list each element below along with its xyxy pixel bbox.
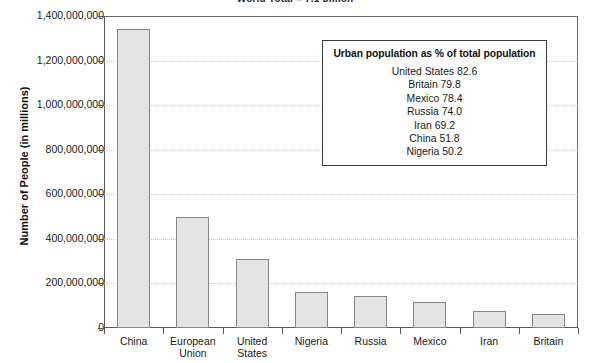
x-tick-mark: [519, 328, 520, 334]
y-tick-label: 1,200,000,000: [0, 54, 114, 66]
x-tick-label-line1: Russia: [341, 336, 400, 348]
x-tick-label: Russia: [341, 336, 400, 348]
x-tick-label-line1: Britain: [519, 336, 578, 348]
gridline: [104, 194, 578, 195]
legend-row: China 51.8: [323, 132, 546, 145]
bar-iran: [473, 311, 506, 328]
y-tick-label: 0: [0, 321, 114, 333]
x-tick-label-line1: Nigeria: [282, 336, 341, 348]
x-tick-label-line2: States: [223, 348, 282, 360]
bar-european-union: [176, 217, 209, 328]
bar-nigeria: [295, 292, 328, 328]
x-tick-mark: [460, 328, 461, 334]
x-tick-label: EuropeanUnion: [163, 336, 222, 359]
bar-united-states: [236, 259, 269, 328]
bar-chart: World Total = 7.1 billion Number of Peop…: [0, 0, 590, 363]
urban-population-legend: Urban population as % of total populatio…: [322, 40, 547, 166]
y-tick-label: 400,000,000: [0, 232, 114, 244]
x-tick-label-line1: United: [223, 336, 282, 348]
x-tick-label: UnitedStates: [223, 336, 282, 359]
gridline: [104, 283, 578, 284]
x-tick-label: Mexico: [400, 336, 459, 348]
x-tick-label-line1: China: [104, 336, 163, 348]
legend-row: Mexico 78.4: [323, 92, 546, 105]
bar-china: [117, 29, 150, 328]
legend-row: Iran 69.2: [323, 119, 546, 132]
bar-mexico: [413, 302, 446, 328]
legend-title: Urban population as % of total populatio…: [323, 48, 546, 59]
y-tick-label: 600,000,000: [0, 187, 114, 199]
y-tick-label: 200,000,000: [0, 276, 114, 288]
y-tick-label: 1,000,000,000: [0, 98, 114, 110]
x-tick-mark: [400, 328, 401, 334]
gridline: [104, 239, 578, 240]
legend-row: Nigeria 50.2: [323, 145, 546, 158]
x-tick-mark: [104, 328, 105, 334]
x-tick-label: China: [104, 336, 163, 348]
bar-russia: [354, 296, 387, 328]
x-tick-label: Iran: [460, 336, 519, 348]
x-tick-mark: [282, 328, 283, 334]
x-tick-mark: [163, 328, 164, 334]
legend-row: United States 82.6: [323, 65, 546, 78]
legend-row: Britain 79.8: [323, 78, 546, 91]
x-tick-label: Britain: [519, 336, 578, 348]
x-tick-label-line2: Union: [163, 348, 222, 360]
bar-britain: [532, 314, 565, 328]
x-tick-mark: [223, 328, 224, 334]
x-tick-label: Nigeria: [282, 336, 341, 348]
legend-list: United States 82.6Britain 79.8Mexico 78.…: [323, 65, 546, 159]
x-tick-mark: [341, 328, 342, 334]
x-tick-label-line1: European: [163, 336, 222, 348]
x-tick-label-line1: Iran: [460, 336, 519, 348]
y-tick-label: 800,000,000: [0, 143, 114, 155]
legend-row: Russia 74.0: [323, 105, 546, 118]
y-tick-label: 1,400,000,000: [0, 9, 114, 21]
x-tick-label-line1: Mexico: [400, 336, 459, 348]
x-tick-mark: [578, 328, 579, 334]
